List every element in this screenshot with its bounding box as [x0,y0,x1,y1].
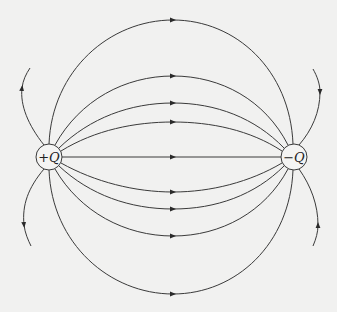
field-line-right-escape-up [299,69,320,145]
field-line-lower-3 [55,169,288,236]
field-line-upper-2 [59,103,284,148]
field-line-left-escape-down [24,169,44,246]
field-line-upper-3 [55,76,288,145]
field-line-upper-1 [61,122,282,151]
positive-charge: +Q [36,144,62,170]
dipole-field-diagram: +Q −Q [0,0,337,312]
negative-charge: −Q [281,144,307,170]
field-lines-main: +Q −Q [0,0,337,312]
positive-charge-label: +Q [38,150,60,165]
field-line-right-escape-down [299,169,318,246]
field-line-lower-outer-arc [49,170,293,294]
negative-charge-label: −Q [283,150,305,165]
field-line-lower-1 [61,163,282,192]
field-line-left-escape-up [22,68,44,145]
field-line-lower-2 [59,166,284,209]
